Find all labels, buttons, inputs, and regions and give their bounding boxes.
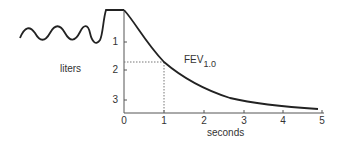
fev-label: FEV <box>184 54 203 65</box>
spirogram-plot <box>0 0 340 145</box>
x-tick-0: 0 <box>118 116 130 126</box>
expiration-curve <box>124 10 318 109</box>
x-tick-1: 1 <box>158 116 170 126</box>
y-tick-2: 2 <box>106 65 118 75</box>
x-tick-4: 4 <box>277 116 289 126</box>
x-axis-label: seconds <box>207 128 244 138</box>
fev-subscript: 1.0 <box>203 59 216 69</box>
y-tick-1: 1 <box>106 37 118 47</box>
x-tick-3: 3 <box>238 116 250 126</box>
fev-annotation: FEV1.0 <box>184 55 216 69</box>
y-tick-3: 3 <box>106 95 118 105</box>
y-axis-label: liters <box>60 64 81 74</box>
x-tick-2: 2 <box>198 116 210 126</box>
x-tick-5: 5 <box>316 116 328 126</box>
